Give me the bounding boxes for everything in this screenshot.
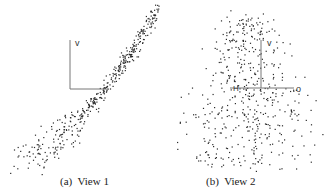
panel-b-axes xyxy=(230,40,294,88)
panel-a-caption: (a) View 1 xyxy=(60,175,109,187)
panel-b-o-axis-label: o xyxy=(296,84,301,94)
figure-canvas xyxy=(0,0,328,194)
panel-b-h-axis-label: H xyxy=(233,84,239,93)
panel-b-caption: (b) View 2 xyxy=(206,175,256,187)
panel-a-v-axis-label: v xyxy=(75,38,80,48)
panel-b-scatter xyxy=(177,10,324,172)
panel-b-v-axis-label: v xyxy=(267,38,272,48)
panel-a-scatter xyxy=(10,5,159,176)
